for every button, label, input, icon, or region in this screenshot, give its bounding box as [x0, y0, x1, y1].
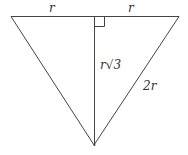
right-side: [94, 17, 179, 146]
right-angle-marker: [95, 17, 105, 27]
label-altitude: r√3: [100, 58, 121, 72]
label-top-right-r: r: [128, 1, 135, 15]
left-side: [11, 17, 94, 146]
label-side-2r: 2r: [142, 79, 158, 93]
bottom-vertex: [94, 144, 96, 146]
triangle-diagram: r r r√3 2r: [0, 0, 188, 155]
label-top-left-r: r: [49, 1, 56, 15]
